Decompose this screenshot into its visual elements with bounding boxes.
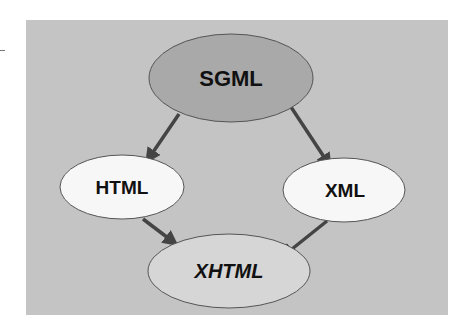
edge-sgml-xml — [289, 104, 330, 166]
node-html-label: HTML — [96, 177, 149, 198]
node-xhtml-label: XHTML — [194, 260, 264, 282]
node-xml-label: XML — [325, 180, 366, 201]
node-xml: XML — [283, 158, 405, 222]
node-xhtml: XHTML — [148, 234, 310, 308]
edge-sgml-html — [147, 114, 179, 161]
node-sgml: SGML — [149, 34, 313, 122]
edge-html-xhtml — [143, 219, 176, 244]
node-html: HTML — [60, 155, 184, 219]
node-sgml-label: SGML — [199, 66, 263, 91]
language-hierarchy-diagram: SGML HTML XML XHTML — [0, 0, 466, 329]
